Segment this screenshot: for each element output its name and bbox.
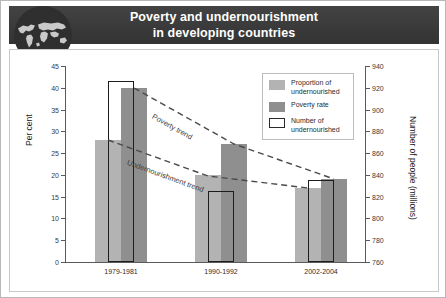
legend-label-line1: Poverty rate [291,101,329,110]
y-tick-label-right: 760 [372,259,384,266]
y-tick-label-left: 5 [55,237,59,244]
y-tick-label-left: 35 [51,107,59,114]
y-tick-right [366,240,370,241]
chart-figure: Poverty and undernourishment in developi… [0,0,446,298]
chart-title: Poverty and undernourishment in developi… [9,9,439,41]
y-tick-right [366,197,370,198]
y-tick-label-right: 900 [372,107,384,114]
x-axis-category-label: 1990-1992 [181,268,261,275]
legend-swatch-poverty-rate [269,102,285,112]
y-tick-label-right: 880 [372,128,384,135]
legend-swatch-proportion-undernourished [269,80,285,90]
y-tick-label-right: 840 [372,172,384,179]
y-axis-right-title: Number of people (millions) [408,116,418,220]
y-tick-right [366,66,370,67]
y-axis-left-title: Per cent [24,114,34,146]
header-banner: Poverty and undernourishment in developi… [9,6,439,44]
legend-item-poverty-rate: Poverty rate [269,101,348,112]
y-tick-right [366,175,370,176]
legend: Proportion of undernourished Poverty rat… [262,73,354,140]
x-axis-category-label: 1979-1981 [81,268,161,275]
y-tick-right [366,88,370,89]
y-tick-label-left: 15 [51,194,59,201]
y-axis-right-line [365,66,366,263]
y-tick-right [366,153,370,154]
chart-title-line1: Poverty and undernourishment [9,9,439,25]
y-tick-label-left: 45 [51,63,59,70]
y-tick-label-right: 940 [372,63,384,70]
plot-panel: Per cent Number of people (millions) 0 5… [9,49,439,292]
legend-label-line1: Proportion of [291,79,340,88]
legend-item-number-undernourished: Number of undernourished [269,117,348,134]
y-tick-right [366,110,370,111]
y-tick-label-right: 920 [372,85,384,92]
y-tick-right [366,131,370,132]
world-map-shape [16,18,70,52]
y-tick-label-right: 860 [372,150,384,157]
y-tick-label-left: 20 [51,172,59,179]
x-axis-category-label: 2002-2004 [281,268,361,275]
legend-label-poverty-rate: Poverty rate [291,101,329,110]
legend-label-line2: undernourished [291,88,340,97]
y-tick-label-left: 10 [51,215,59,222]
y-tick-label-right: 780 [372,237,384,244]
y-tick-label-left: 40 [51,85,59,92]
legend-label-proportion-undernourished: Proportion of undernourished [291,79,340,96]
y-tick-label-left: 0 [55,259,59,266]
legend-label-number-undernourished: Number of undernourished [291,117,340,134]
y-tick-right [366,218,370,219]
legend-label-line1: Number of [291,117,340,126]
y-tick-label-right: 800 [372,215,384,222]
legend-swatch-number-undernourished [269,118,285,128]
y-tick-label-right: 820 [372,194,384,201]
chart-title-line2: in developing countries [9,25,439,41]
legend-item-proportion-undernourished: Proportion of undernourished [269,79,348,96]
y-tick-right [366,262,370,263]
y-tick-label-left: 25 [51,150,59,157]
y-tick-label-left: 30 [51,128,59,135]
legend-label-line2: undernourished [291,126,340,135]
